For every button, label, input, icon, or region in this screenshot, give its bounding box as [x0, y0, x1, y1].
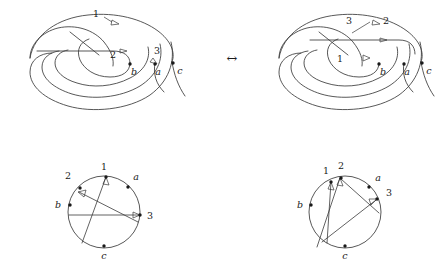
chord-to-3-right — [322, 200, 376, 242]
point-dot-3-left — [138, 213, 141, 216]
label-b-right: b — [380, 66, 386, 77]
figure-root: 1 2 3 b a c ↔ — [0, 0, 437, 267]
label-1-left: 1 — [93, 8, 99, 19]
label-point-a-right: a — [375, 172, 381, 183]
point-dot-c-left — [102, 244, 105, 247]
label-point-b-right: b — [297, 199, 303, 210]
chord-2-to-right-left — [79, 192, 138, 222]
point-dot-2-left — [78, 186, 81, 189]
label-c-left: c — [177, 65, 183, 76]
point-dot-b-left — [68, 203, 71, 206]
endpoint-dot-c-right — [420, 61, 423, 64]
label-point-3-right: 3 — [386, 187, 392, 198]
label-2-right: 2 — [383, 15, 389, 26]
label-point-1-left: 1 — [101, 161, 107, 172]
point-dot-c-right — [343, 244, 346, 247]
tangle-diagram-left: 1 2 3 b a c — [30, 8, 185, 110]
arrowhead-1-left — [111, 20, 119, 25]
point-dot-1-left — [104, 175, 107, 178]
chord-2-to-lowerright-right — [341, 179, 379, 213]
upper-left-lobe-left — [30, 27, 113, 66]
relation-symbol: ↔ — [227, 51, 238, 66]
label-point-b-left: b — [55, 199, 61, 210]
crossing-segment-left — [70, 32, 99, 55]
figure-canvas: 1 2 3 b a c ↔ — [0, 0, 437, 267]
label-point-1-right: 1 — [323, 165, 329, 176]
chord-diagram-right: 1 2 a 3 b c — [297, 160, 392, 261]
label-b-left: b — [131, 66, 137, 77]
label-3-left: 3 — [154, 45, 160, 56]
chord-to-1-right — [327, 182, 331, 243]
second-loop-right — [291, 44, 410, 97]
point-dot-2-right — [339, 176, 342, 179]
label-2-left: 2 — [110, 49, 116, 60]
label-point-c-left: c — [101, 250, 107, 261]
label-point-a-left: a — [133, 171, 139, 182]
label-point-2-left: 2 — [65, 170, 71, 181]
label-point-3-left: 3 — [147, 210, 153, 221]
arrowhead-2-right — [372, 20, 380, 25]
label-point-c-right: c — [342, 250, 348, 261]
label-point-2-right: 2 — [338, 160, 344, 171]
point-dot-a-left — [126, 185, 129, 188]
chord-diagram-left: 1 2 a b 3 c — [55, 161, 153, 261]
crossing-segment-right — [319, 32, 348, 55]
arrowhead-2-left — [120, 49, 127, 53]
leader-3-right — [352, 22, 370, 33]
label-c-right: c — [426, 65, 432, 76]
arrowhead-1-right — [363, 55, 370, 61]
label-3-right: 3 — [346, 15, 352, 26]
relation-arrow: ↔ — [227, 51, 238, 66]
label-a-left: a — [155, 66, 161, 77]
chord-bottomleft-to-1-left — [82, 177, 106, 243]
endpoint-dot-c-left — [171, 61, 174, 64]
label-a-right: a — [404, 66, 410, 77]
point-dot-b-right — [309, 203, 312, 206]
label-1-right: 1 — [337, 53, 343, 64]
top-arc-left — [30, 14, 173, 62]
second-loop-left — [42, 44, 161, 97]
point-dot-1-right — [329, 180, 332, 183]
point-dot-3-right — [375, 197, 378, 200]
strand-horizontal-right — [310, 40, 415, 54]
tangle-diagram-right: 3 2 1 b a c — [279, 14, 434, 109]
leader-1-left — [104, 17, 112, 22]
point-dot-a-right — [367, 185, 370, 188]
upper-left-lobe-right — [279, 27, 362, 66]
